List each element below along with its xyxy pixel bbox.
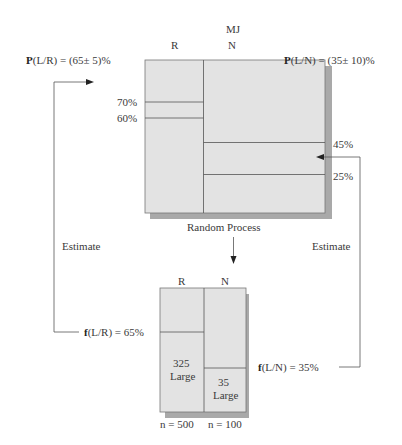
right-count: 35 — [218, 376, 229, 388]
label-70: 70% — [117, 96, 137, 108]
freq-left: f(L/R) = 65% — [84, 326, 144, 338]
freq-right: f(L/N) = 35% — [258, 361, 319, 373]
left-count: 325 — [173, 357, 190, 369]
left-count-label: Large — [170, 370, 195, 382]
prob-left-symbol: P — [26, 54, 33, 66]
bottom-col-n: N — [221, 275, 229, 287]
prob-left: P(L/R) = (65± 5)% — [26, 54, 111, 66]
down-arrow-head-icon — [231, 256, 237, 264]
freq-left-text: (L/R) = 65% — [88, 326, 144, 338]
top-col-n: N — [228, 39, 236, 51]
label-25: 25% — [333, 170, 353, 182]
estimate-right-label: Estimate — [312, 240, 351, 252]
top-col-r: R — [171, 39, 178, 51]
n-left: n = 500 — [160, 418, 194, 430]
n-right: n = 100 — [208, 418, 242, 430]
label-60: 60% — [117, 112, 137, 124]
prob-left-text: (L/R) = (65± 5)% — [33, 54, 111, 66]
prob-right-text: (L/N) = (35± 10)% — [291, 54, 375, 66]
left-estimate-line — [54, 82, 88, 332]
top-title: MJ — [226, 23, 240, 35]
prob-right: P(L/N) = (35± 10)% — [284, 54, 375, 66]
label-45: 45% — [333, 138, 353, 150]
bottom-col-r: R — [178, 275, 185, 287]
top-box — [145, 60, 325, 213]
right-count-label: Large — [213, 389, 238, 401]
random-process-caption: Random Process — [187, 221, 261, 233]
left-arrow-head-icon — [86, 79, 94, 85]
estimate-left-label: Estimate — [62, 240, 101, 252]
freq-right-text: (L/N) = 35% — [262, 361, 319, 373]
prob-right-symbol: P — [284, 54, 291, 66]
